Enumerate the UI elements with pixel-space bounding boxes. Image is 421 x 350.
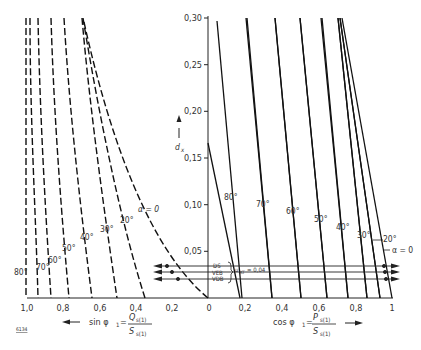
svg-text:=: = (306, 317, 313, 327)
svg-text:P: P (313, 312, 318, 322)
curve-40 (64, 18, 92, 298)
brace-icon (228, 262, 233, 283)
svg-text:0,20: 0,20 (184, 106, 202, 116)
arrow-right-icon (355, 321, 363, 326)
svg-text:s(1): s(1) (136, 316, 146, 323)
operating-arrows (153, 264, 400, 282)
power-factor-diagram: 0,30 0,25 0,20 0,15 0,10 0,05 d x 0 0,2 … (0, 0, 421, 350)
svg-text:1: 1 (389, 303, 394, 313)
svg-text:0,6: 0,6 (94, 303, 107, 313)
svg-text:0,2: 0,2 (166, 303, 179, 313)
svg-text:50°: 50° (62, 243, 76, 253)
svg-text:50°: 50° (314, 214, 328, 224)
arrow-up-icon (177, 115, 182, 122)
right-x-ticks: 0 0,2 0,4 0,6 0,8 1 (206, 303, 394, 313)
svg-text:0,30: 0,30 (184, 13, 202, 23)
y-axis-label: d x (175, 115, 185, 153)
right-axis-formula: cos φ 1 = P s(1) S s(1) (273, 312, 363, 337)
svg-text:=: = (120, 317, 127, 327)
svg-text:s(1): s(1) (320, 316, 330, 323)
svg-text:40°: 40° (336, 222, 350, 232)
svg-text:80°: 80° (224, 192, 238, 202)
svg-text:0,8: 0,8 (350, 303, 363, 313)
svg-text:0,15: 0,15 (184, 153, 202, 163)
svg-text:0,25: 0,25 (184, 60, 202, 70)
y-tick-labels: 0,30 0,25 0,20 0,15 0,10 0,05 (184, 13, 202, 256)
svg-text:1,0: 1,0 (21, 303, 34, 313)
svg-text:70°: 70° (256, 199, 270, 209)
svg-text:40°: 40° (80, 232, 94, 242)
svg-text:VDB: VDB (212, 275, 224, 282)
svg-text:0,05: 0,05 (184, 246, 202, 256)
y-axis (204, 16, 208, 298)
svg-text:60°: 60° (286, 206, 300, 216)
svg-text:0,10: 0,10 (184, 200, 202, 210)
svg-text:= 0,04: = 0,04 (247, 266, 266, 273)
svg-text:0,2: 0,2 (239, 303, 252, 313)
svg-text:30°: 30° (357, 230, 371, 240)
curve-30 (82, 18, 117, 298)
svg-text:DS: DS (213, 262, 221, 269)
svg-text:α = 0: α = 0 (138, 204, 159, 214)
svg-text:0,8: 0,8 (57, 303, 70, 313)
svg-text:sin φ: sin φ (89, 317, 109, 327)
svg-text:x: x (180, 146, 185, 153)
svg-text:20°: 20° (383, 234, 397, 244)
svg-text:30°: 30° (100, 224, 114, 234)
right-solid-lines-main (217, 18, 392, 298)
svg-text:60°: 60° (48, 255, 62, 265)
left-axis-formula: sin φ 1 = Q s(1) S s(1) (62, 312, 152, 337)
svg-text:s(1): s(1) (320, 330, 330, 337)
svg-text:1: 1 (302, 321, 305, 328)
svg-text:d: d (175, 142, 180, 152)
arrow-left-icon (62, 320, 70, 325)
svg-text:cos φ: cos φ (273, 317, 295, 327)
svg-text:α = 0: α = 0 (392, 245, 413, 255)
svg-text:20°: 20° (120, 215, 134, 225)
svg-text:Q: Q (129, 312, 136, 322)
svg-text:KT: KT (240, 270, 245, 275)
svg-text:0,4: 0,4 (276, 303, 289, 313)
curve-70 (30, 18, 38, 298)
svg-text:0: 0 (206, 303, 211, 313)
svg-text:u: u (235, 266, 239, 273)
curve-20 (83, 18, 145, 298)
left-x-ticks: 1,0 0,8 0,6 0,4 0,2 (21, 303, 179, 313)
right-angle-labels: 80° 70° 60° 50° 40° 30° 20° α = 0 (224, 192, 413, 255)
figure-id: 6134 (16, 326, 28, 332)
svg-text:S: S (313, 326, 318, 336)
svg-text:S: S (129, 326, 134, 336)
right-solid-lines (208, 18, 393, 298)
svg-text:s(1): s(1) (136, 330, 146, 337)
svg-text:80°: 80° (14, 267, 28, 277)
svg-text:1: 1 (116, 321, 119, 328)
